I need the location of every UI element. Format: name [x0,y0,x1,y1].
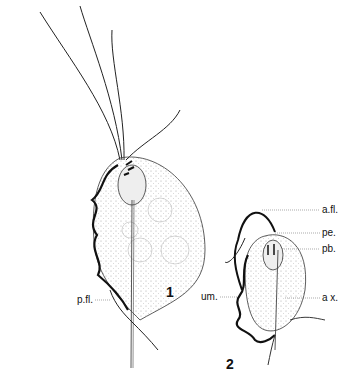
label-undulating-membrane: um. [201,291,218,302]
label-posterior-flagellum: p.fl. [77,294,93,305]
figure-number-2: 2 [226,356,234,372]
label-pelta: pe. [322,227,336,238]
label-parabasal-body: pb. [322,243,336,254]
illustration-canvas [0,0,350,378]
figure-number-1: 1 [166,284,174,300]
figure-1-organism [40,6,205,368]
label-anterior-flagella: a.fl. [322,204,338,215]
figure-2-organism [220,210,325,365]
label-axostyle: a x. [322,292,338,303]
